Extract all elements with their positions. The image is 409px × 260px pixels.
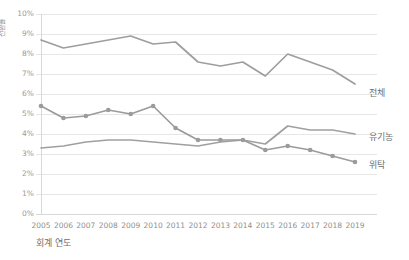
x-tick-label: 2010 [141, 222, 165, 230]
x-axis-title: 회계 연도 [36, 236, 71, 249]
data-point-marker [308, 148, 313, 153]
data-point-marker [263, 148, 268, 153]
series-line-0 [41, 36, 355, 84]
series-line-1 [41, 126, 355, 148]
x-tick-label: 2017 [298, 222, 322, 230]
x-tick-label: 2007 [74, 222, 98, 230]
chart-container: 전환율 0%1%2%3%4%5%6%7%8%9%10% 200520062007… [0, 0, 409, 260]
data-point-marker [128, 112, 133, 117]
x-tick-label: 2016 [276, 222, 300, 230]
x-tick-label: 2018 [321, 222, 345, 230]
x-tick-label: 2011 [164, 222, 188, 230]
data-point-marker [196, 138, 201, 143]
data-point-marker [106, 108, 111, 113]
data-point-marker [39, 104, 44, 109]
data-point-marker [151, 104, 156, 109]
data-point-marker [285, 144, 290, 149]
x-tick-label: 2014 [231, 222, 255, 230]
x-tick-label: 2009 [119, 222, 143, 230]
data-point-marker [330, 154, 335, 159]
data-point-marker [61, 116, 66, 121]
x-tick-label: 2006 [51, 222, 75, 230]
x-tick-label: 2019 [343, 222, 367, 230]
data-point-marker [84, 114, 89, 119]
data-point-marker [353, 160, 358, 165]
x-tick-label: 2015 [253, 222, 277, 230]
x-tick-label: 2012 [186, 222, 210, 230]
series-label-유기농: 유기농 [369, 130, 393, 143]
x-tick-label: 2008 [96, 222, 120, 230]
x-tick-label: 2005 [29, 222, 53, 230]
data-point-marker [173, 126, 178, 131]
data-point-marker [241, 138, 246, 143]
series-label-전체: 전체 [369, 86, 385, 99]
x-tick-label: 2013 [208, 222, 232, 230]
series-label-위탁: 위탁 [369, 158, 385, 171]
data-point-marker [218, 138, 223, 143]
